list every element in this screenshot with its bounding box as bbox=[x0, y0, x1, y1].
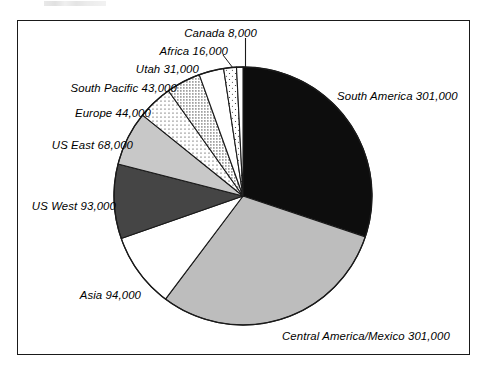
slice-label-europe: Europe 44,000 bbox=[0, 108, 151, 119]
slice-label-us-east: US East 68,000 bbox=[0, 140, 133, 151]
pie-slice-group bbox=[114, 67, 372, 325]
slice-label-south-pacific: South Pacific 43,000 bbox=[0, 83, 177, 94]
slice-label-us-west: US West 93,000 bbox=[0, 201, 116, 212]
slice-label-asia: Asia 94,000 bbox=[0, 290, 141, 301]
slice-label-south-america: South America 301,000 bbox=[337, 91, 458, 102]
slice-label-africa: Africa 16,000 bbox=[0, 46, 228, 57]
slice-label-central-america-mexico: Central America/Mexico 301,000 bbox=[282, 331, 450, 342]
slice-label-utah: Utah 31,000 bbox=[0, 64, 199, 75]
slice-label-canada: Canada 8,000 bbox=[0, 28, 257, 39]
